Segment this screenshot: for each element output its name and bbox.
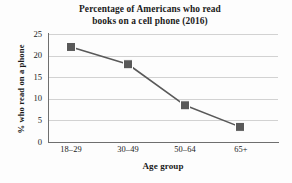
x-axis-title: Age group [48,161,278,171]
x-tick-label-18-29: 18–29 [41,145,101,154]
x-tick-label-50-64: 50–64 [155,145,215,154]
data-point-50–64 [181,101,190,110]
data-point-18–29 [67,42,76,51]
data-point-65+ [236,122,245,131]
data-series-line [0,0,292,183]
data-point-30–49 [124,60,133,69]
chart-container: Percentage of Americans who read books o… [0,0,292,183]
x-tick-label-65plus: 65+ [211,145,271,154]
x-tick-label-30-49: 30–49 [98,145,158,154]
